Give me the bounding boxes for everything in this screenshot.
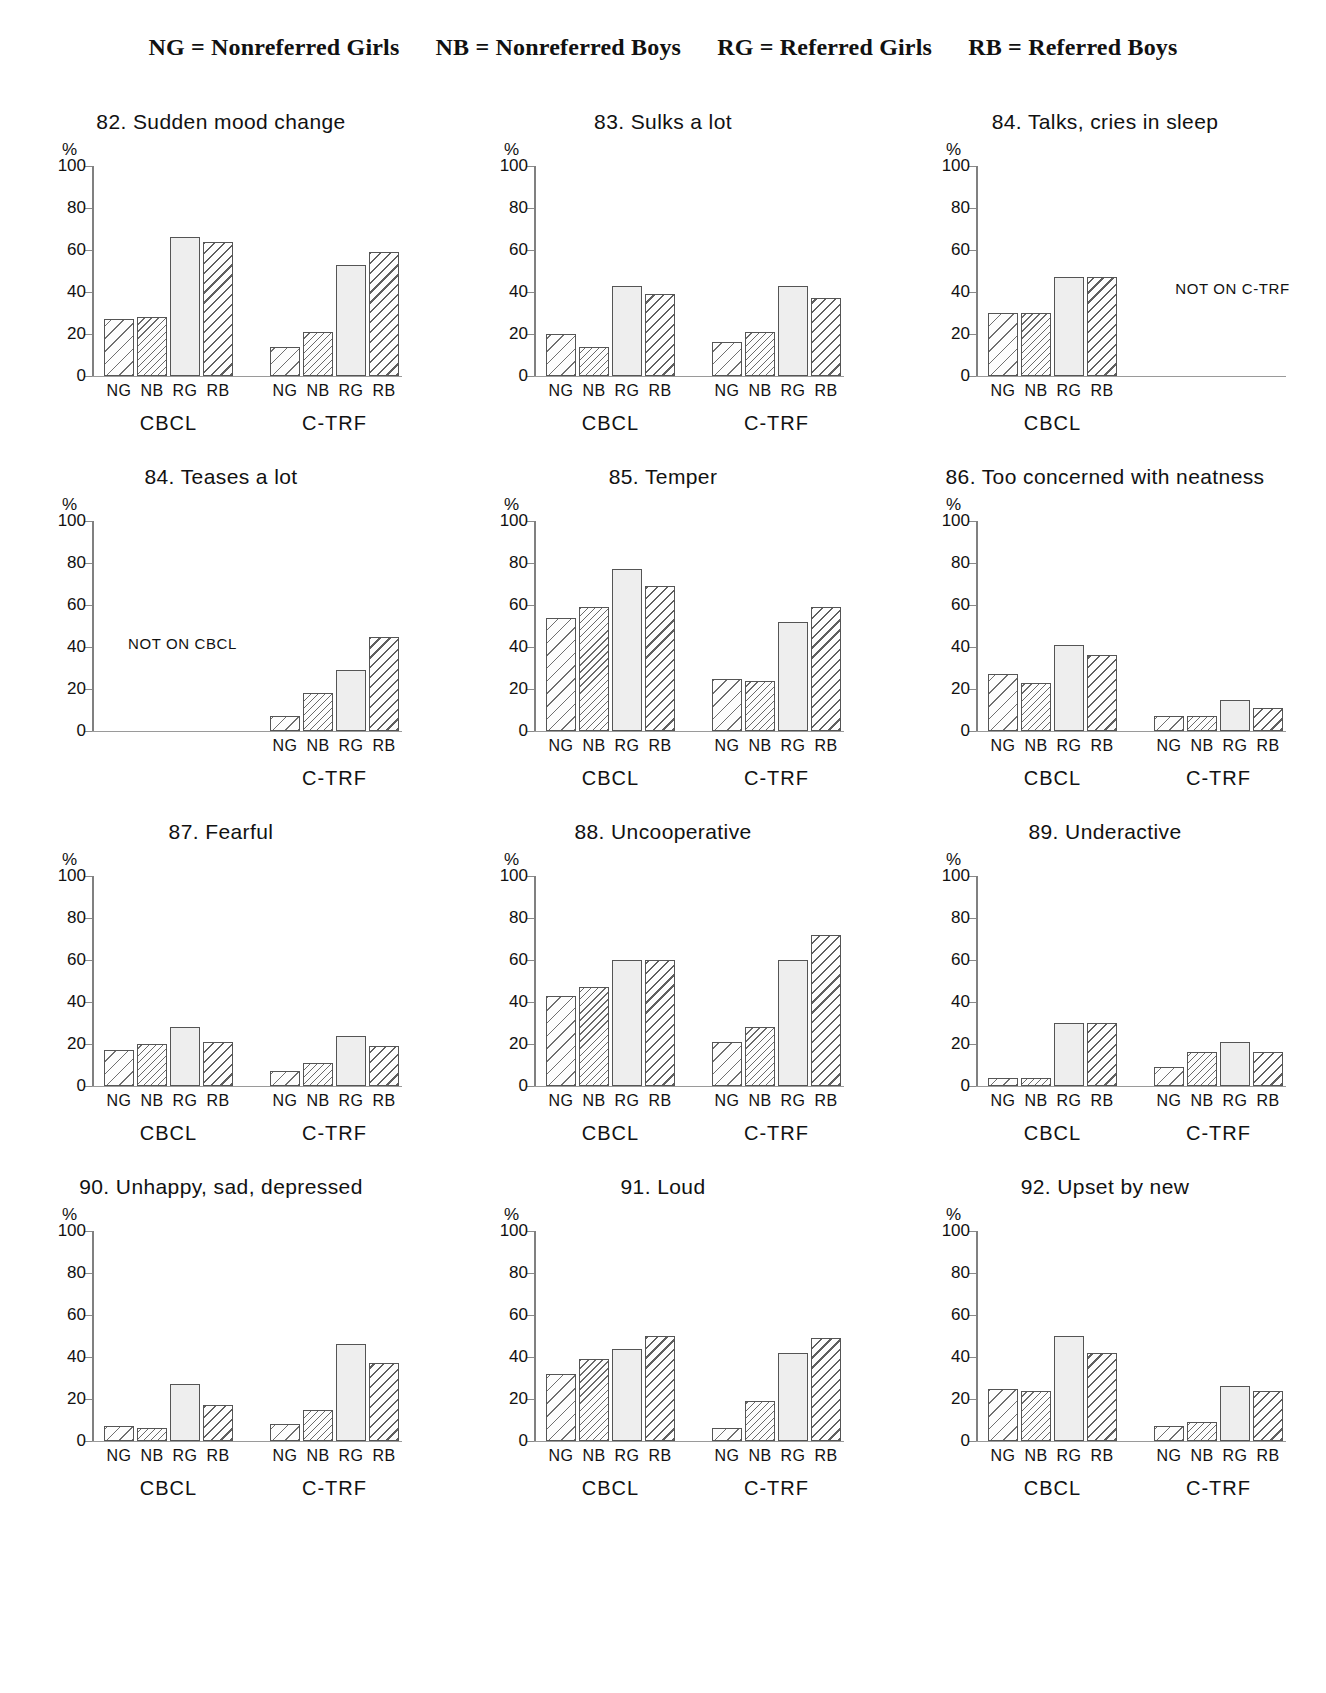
x-tick-label: RG <box>781 737 806 755</box>
y-axis-line <box>534 166 536 376</box>
x-tick-label: NG <box>273 737 298 755</box>
y-tick-label: 80 <box>951 1263 970 1283</box>
y-tick-label: 60 <box>951 595 970 615</box>
bar-cbcl-rg <box>170 1027 200 1086</box>
x-tick-label: RG <box>615 737 640 755</box>
y-tick-label: 60 <box>67 595 86 615</box>
chart-panel: 84. Teases a lot%020406080100NGNBRGRBC-T… <box>0 455 442 810</box>
x-tick-label: NG <box>107 1447 132 1465</box>
y-tick-label: 40 <box>509 992 528 1012</box>
chart-title: 88. Uncooperative <box>442 820 884 844</box>
bar-cbcl-nb <box>579 607 609 731</box>
legend-entry-nb: NB = Nonreferred Boys <box>436 34 682 61</box>
bar-ctrf-nb <box>1187 1422 1217 1441</box>
bar-cbcl-ng <box>104 1050 134 1086</box>
y-tick-label: 40 <box>951 637 970 657</box>
bar-ctrf-rg <box>778 1353 808 1441</box>
y-axis-line <box>976 521 978 731</box>
y-tick-label: 100 <box>58 866 86 886</box>
group-label: C-TRF <box>302 1477 367 1500</box>
x-tick-label: NB <box>582 737 605 755</box>
y-tick-label: 60 <box>951 1305 970 1325</box>
bar-ctrf-ng <box>1154 1067 1184 1086</box>
x-tick-label: NG <box>1157 1092 1182 1110</box>
x-tick-label: NG <box>991 1092 1016 1110</box>
bar-ctrf-nb <box>745 681 775 731</box>
bar-cbcl-ng <box>546 1374 576 1441</box>
group-label: CBCL <box>140 1122 197 1145</box>
y-tick-label: 40 <box>951 992 970 1012</box>
y-tick-label: 0 <box>77 721 86 741</box>
x-tick-label: NB <box>748 1447 771 1465</box>
bar-ctrf-nb <box>745 1027 775 1086</box>
x-tick-label: RB <box>1090 382 1113 400</box>
bar-cbcl-ng <box>546 334 576 376</box>
y-tick-label: 80 <box>67 553 86 573</box>
bar-cbcl-rb <box>645 1336 675 1441</box>
bar-cbcl-ng <box>988 313 1018 376</box>
y-tick-label: 80 <box>951 553 970 573</box>
x-tick-label: RG <box>781 1447 806 1465</box>
y-tick-label: 100 <box>942 156 970 176</box>
y-tick-label: 20 <box>67 324 86 344</box>
x-axis-line <box>92 1086 402 1087</box>
y-tick-label: 100 <box>58 1221 86 1241</box>
x-tick-label: RB <box>206 1447 229 1465</box>
x-tick-label: NG <box>549 382 574 400</box>
plot-area: 020406080100NGNBRGRBCBCLNGNBRGRBC-TRF <box>534 521 844 731</box>
x-axis-line <box>976 376 1286 377</box>
bar-cbcl-rg <box>1054 645 1084 731</box>
bar-ctrf-ng <box>712 679 742 732</box>
x-tick-label: RG <box>615 1447 640 1465</box>
x-tick-label: RB <box>1256 737 1279 755</box>
x-tick-label: NB <box>582 1447 605 1465</box>
y-tick-label: 80 <box>67 908 86 928</box>
x-tick-label: NB <box>140 1092 163 1110</box>
x-tick-label: RB <box>1256 1447 1279 1465</box>
bar-ctrf-nb <box>303 1410 333 1442</box>
y-tick-label: 100 <box>942 866 970 886</box>
x-tick-label: NB <box>582 1092 605 1110</box>
x-axis-line <box>976 731 1286 732</box>
y-axis-line <box>92 1231 94 1441</box>
group-label: C-TRF <box>1186 767 1251 790</box>
y-tick-label: 40 <box>951 282 970 302</box>
x-tick-label: NG <box>1157 737 1182 755</box>
x-tick-label: RB <box>372 737 395 755</box>
y-tick-label: 60 <box>67 240 86 260</box>
chart-panel: 82. Sudden mood change%020406080100NGNBR… <box>0 100 442 455</box>
y-tick-label: 80 <box>67 1263 86 1283</box>
bar-cbcl-rb <box>645 960 675 1086</box>
x-axis-line <box>92 1441 402 1442</box>
bar-ctrf-ng <box>270 1424 300 1441</box>
y-tick-label: 60 <box>509 240 528 260</box>
y-tick-label: 0 <box>519 1076 528 1096</box>
y-tick-label: 0 <box>519 1431 528 1451</box>
x-tick-label: RB <box>1090 1447 1113 1465</box>
bar-ctrf-rb <box>811 607 841 731</box>
x-tick-label: NG <box>715 737 740 755</box>
y-tick-label: 100 <box>942 511 970 531</box>
x-tick-label: RB <box>1256 1092 1279 1110</box>
bar-cbcl-nb <box>1021 1391 1051 1441</box>
x-tick-label: NB <box>306 1447 329 1465</box>
y-axis-line <box>534 876 536 1086</box>
legend-entry-ng: NG = Nonreferred Girls <box>148 34 399 61</box>
y-tick-label: 40 <box>951 1347 970 1367</box>
x-tick-label: RB <box>814 382 837 400</box>
x-tick-label: NB <box>140 1447 163 1465</box>
bar-cbcl-rb <box>1087 655 1117 731</box>
bar-ctrf-rb <box>811 935 841 1086</box>
chart-panel: 91. Loud%020406080100NGNBRGRBCBCLNGNBRGR… <box>442 1165 884 1520</box>
bar-ctrf-rg <box>336 670 366 731</box>
bar-ctrf-rg <box>336 1036 366 1086</box>
y-axis-line <box>534 1231 536 1441</box>
y-tick-label: 60 <box>509 950 528 970</box>
x-tick-label: NG <box>273 1092 298 1110</box>
chart-panel: 89. Underactive%020406080100NGNBRGRBCBCL… <box>884 810 1326 1165</box>
x-tick-label: NB <box>1024 737 1047 755</box>
y-tick-label: 60 <box>67 1305 86 1325</box>
bar-cbcl-rg <box>612 960 642 1086</box>
y-tick-label: 0 <box>961 366 970 386</box>
group-label: C-TRF <box>302 767 367 790</box>
